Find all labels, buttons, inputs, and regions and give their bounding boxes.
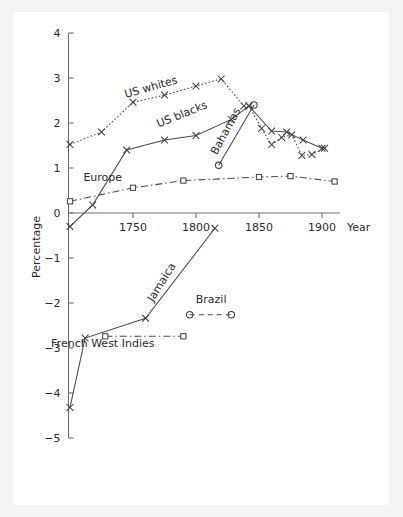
marker-x [161, 92, 168, 99]
marker-square [181, 334, 186, 339]
marker-square [288, 174, 293, 179]
series-label-french-west-indies: French West Indies [51, 337, 155, 350]
y-axis-title: Percentage [30, 216, 43, 278]
y-tick-label: 3 [54, 72, 61, 85]
figure-container: −5−4−3−2−1012341750180018501900Percentag… [0, 0, 403, 517]
y-tick-label: −2 [44, 297, 60, 310]
x-tick-label: 1750 [119, 221, 147, 234]
y-tick-label: 0 [54, 207, 61, 220]
marker-x [123, 147, 130, 154]
marker-x [89, 202, 96, 209]
series-europe: Europe [67, 171, 337, 204]
marker-x [278, 134, 285, 141]
marker-square [130, 185, 135, 190]
marker-circle [215, 162, 221, 168]
series-line [70, 228, 215, 407]
y-tick-label: 4 [54, 27, 61, 40]
x-tick-label: 1850 [245, 221, 273, 234]
series-line [249, 106, 325, 155]
marker-x [268, 141, 275, 148]
marker-x [212, 225, 219, 232]
series-label-us-blacks: US blacks [155, 98, 210, 130]
series-line [70, 106, 322, 227]
marker-x [258, 125, 265, 132]
marker-x [98, 129, 105, 136]
x-axis-title: Year [346, 221, 371, 234]
marker-x [309, 151, 316, 158]
marker-x [300, 137, 307, 144]
series-label-europe: Europe [83, 171, 122, 184]
series-label-brazil: Brazil [196, 293, 227, 306]
series-us-blacks: US blacks [67, 98, 326, 230]
marker-x [130, 99, 137, 106]
marker-x [67, 223, 74, 230]
marker-x [193, 83, 200, 90]
y-tick-label: −4 [44, 387, 60, 400]
x-tick-label: 1900 [308, 221, 336, 234]
line-chart: −5−4−3−2−1012341750180018501900Percentag… [0, 0, 403, 517]
series-label-us-whites: US whites [123, 73, 179, 101]
y-tick-label: −5 [44, 432, 60, 445]
marker-square [67, 199, 72, 204]
marker-square [181, 178, 186, 183]
y-tick-label: 2 [54, 117, 61, 130]
y-tick-label: 1 [54, 162, 61, 175]
y-tick-label: −1 [44, 252, 60, 265]
series-brazil: Brazil [187, 293, 235, 318]
series-us-blacks-secondary [246, 103, 328, 159]
marker-x [67, 141, 74, 148]
x-tick-label: 1800 [182, 221, 210, 234]
series-french-west-indies: French West Indies [51, 334, 186, 350]
series-jamaica: Jamaica [67, 225, 219, 411]
series-bahamas: Bahamas [208, 102, 257, 169]
marker-square [332, 179, 337, 184]
marker-x [218, 76, 225, 83]
marker-square [256, 174, 261, 179]
marker-x [142, 315, 149, 322]
